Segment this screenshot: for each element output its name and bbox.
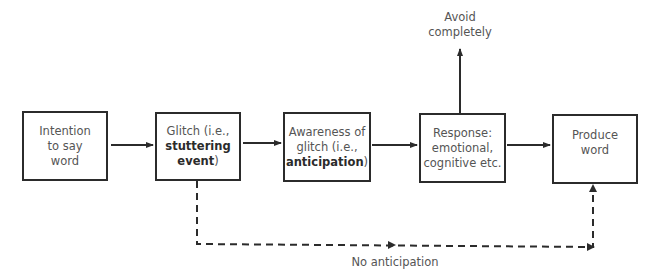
node-produce-line-1: Produce	[572, 128, 618, 143]
node-glitch-bold-2: event	[177, 154, 214, 168]
node-intention-line-1: Intention	[39, 124, 91, 139]
node-glitch: Glitch (i.e., stuttering event)	[155, 112, 241, 181]
label-avoid-completely: Avoid completely	[420, 10, 500, 40]
node-glitch-bold-1: stuttering	[165, 139, 230, 153]
node-produce-line-2: word	[572, 143, 618, 158]
node-response: Response: emotional, cognitive etc.	[419, 113, 506, 183]
node-intention-line-3: word	[39, 154, 91, 169]
label-avoid-line-1: Avoid	[420, 10, 500, 25]
node-glitch-tail: )	[214, 154, 219, 168]
dashed-path-no-anticipation	[197, 181, 593, 247]
node-awareness-line-2: glitch (i.e.,	[286, 140, 368, 155]
node-glitch-line-1: Glitch (i.e.,	[165, 124, 230, 139]
dashed-up-arrowhead	[589, 184, 597, 192]
node-awareness-line-1: Awareness of	[286, 125, 368, 140]
node-response-line-2: emotional,	[424, 141, 502, 156]
label-avoid-line-2: completely	[420, 25, 500, 40]
dashed-mid-arrowhead	[388, 241, 396, 249]
node-intention-line-2: to say	[39, 139, 91, 154]
node-produce: Produce word	[552, 114, 638, 184]
node-awareness: Awareness of glitch (i.e., anticipation)	[283, 112, 371, 182]
label-no-anticipation: No anticipation	[330, 255, 460, 270]
node-response-line-3: cognitive etc.	[424, 156, 502, 171]
node-awareness-tail: )	[364, 155, 369, 169]
node-awareness-bold: anticipation	[286, 155, 364, 169]
node-intention: Intention to say word	[22, 111, 108, 181]
node-response-line-1: Response:	[424, 126, 502, 141]
